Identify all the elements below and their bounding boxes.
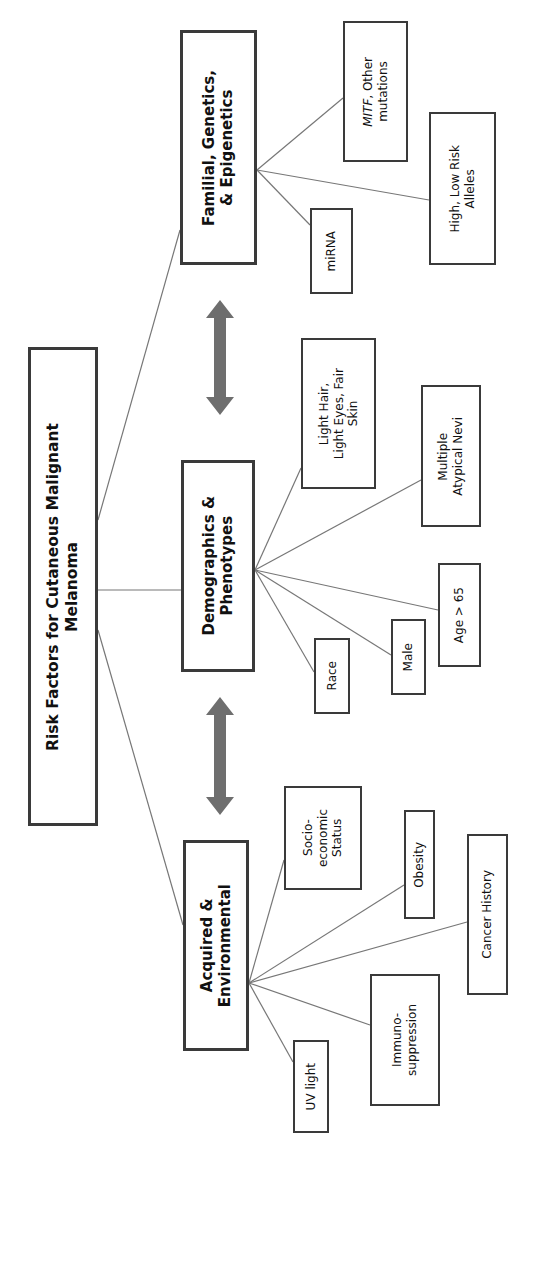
leaf-label: High, Low Risk Alleles (448, 145, 477, 233)
category-label: Demographics & Phenotypes (200, 496, 237, 636)
leaf-label: UV light (304, 1063, 319, 1110)
root-label: Risk Factors for Cutaneous Malignant Mel… (44, 423, 82, 751)
leaf-cancer-history: Cancer History (467, 834, 508, 995)
category-acquired-environmental: Acquired & Environmental (183, 840, 249, 1051)
leaf-light-hair-eyes-skin: Light Hair, Light Eyes, Fair Skin (301, 338, 376, 489)
leaf-age: Age > 65 (438, 563, 481, 667)
root-node: Risk Factors for Cutaneous Malignant Mel… (28, 347, 98, 826)
category-demographics-phenotypes: Demographics & Phenotypes (181, 460, 255, 672)
leaf-label: Socio- economic Status (301, 809, 345, 867)
leaf-label: Multiple Atypical Nevi (436, 417, 465, 496)
leaf-mitf-mutations: MITF, Other mutations (343, 21, 408, 162)
leaf-race: Race (314, 638, 350, 714)
leaf-immunosuppression: Immuno- suppression (370, 974, 440, 1106)
leaf-uv-light: UV light (293, 1040, 329, 1133)
leaf-male: Male (391, 619, 426, 695)
leaf-risk-alleles: High, Low Risk Alleles (429, 112, 496, 265)
category-label: Familial, Genetics, & Epigenetics (200, 70, 237, 226)
leaf-socioeconomic-status: Socio- economic Status (284, 786, 362, 890)
leaf-label: Age > 65 (452, 587, 467, 643)
leaf-label: miRNA (324, 231, 339, 272)
category-label: Acquired & Environmental (198, 884, 235, 1007)
leaf-label: Obesity (412, 842, 427, 888)
category-familial-genetics: Familial, Genetics, & Epigenetics (180, 30, 257, 265)
leaf-label: Cancer History (480, 870, 495, 959)
leaf-label-italic: MITF (361, 98, 375, 126)
risk-factor-diagram: Risk Factors for Cutaneous Malignant Mel… (0, 0, 559, 1268)
leaf-label: Immuno- suppression (390, 1004, 419, 1076)
leaf-label: Race (325, 661, 340, 690)
leaf-label: Male (401, 643, 416, 671)
leaf-label: Light Hair, Light Eyes, Fair Skin (317, 368, 361, 459)
leaf-mirna: miRNA (310, 208, 353, 294)
leaf-obesity: Obesity (404, 810, 435, 919)
leaf-atypical-nevi: Multiple Atypical Nevi (421, 385, 481, 527)
